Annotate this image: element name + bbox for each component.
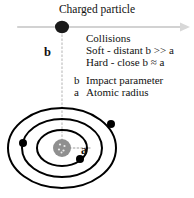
legend-key-b-description: Impact parameter xyxy=(86,75,163,86)
nucleon-dot xyxy=(58,148,60,150)
atomic-radius-label: a xyxy=(81,144,87,156)
page-title: Charged particle xyxy=(0,4,194,16)
nucleon-dot xyxy=(59,143,61,145)
nucleon-dot xyxy=(61,152,63,154)
impact-parameter-label: b xyxy=(44,46,51,59)
physics-diagram-figure: Charged particle b Collisions Soft - dis… xyxy=(0,0,194,198)
nucleon-dot xyxy=(63,145,65,147)
particle-trajectory-group xyxy=(18,22,190,31)
legend-key-a-description: Atomic radius xyxy=(86,87,149,98)
electron-icon xyxy=(19,139,27,147)
electron-icon xyxy=(107,120,115,128)
charged-particle-icon xyxy=(55,21,69,33)
legend-soft-collision: Soft - distant b >> a xyxy=(86,45,174,56)
legend-hard-collision: Hard - close b ≈ a xyxy=(86,57,164,68)
diagram-canvas xyxy=(0,0,194,198)
nucleus-body xyxy=(53,139,71,157)
legend-key-b-symbol: b xyxy=(74,75,80,86)
nucleon-dot xyxy=(62,149,64,151)
atomic-nucleus-icon xyxy=(53,139,71,157)
legend-heading: Collisions xyxy=(86,33,131,44)
legend-key-a-symbol: a xyxy=(74,87,79,98)
arrow-right-icon xyxy=(180,22,190,31)
